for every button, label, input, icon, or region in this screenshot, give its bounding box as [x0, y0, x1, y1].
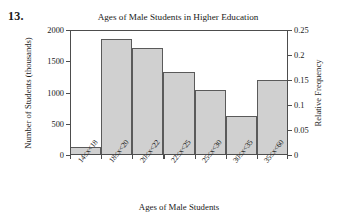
y-tick-right [288, 155, 292, 156]
axis-right-line [287, 30, 288, 155]
plot-area: 0500100015002000 00.050.10.150.20.25 [70, 30, 288, 155]
problem-number: 13. [8, 9, 24, 24]
y-axis-label-left: Number of Students (thousands) [22, 30, 34, 155]
bar-series [70, 30, 288, 155]
y-tick-label-right: 0.05 [294, 126, 309, 135]
axis-left-line [70, 30, 71, 155]
x-axis-tick-labels: 14≤x<1818≤x<2020≤x<2222≤x<2525≤x<3030≤x<… [70, 159, 288, 199]
y-tick-label-right: 0 [294, 151, 298, 160]
y-tick-right [288, 55, 292, 56]
y-axis-label-right-text: Relative Frequency [313, 59, 323, 126]
y-tick-label-right: 0.25 [294, 26, 309, 35]
bar [132, 48, 163, 155]
axis-top-line [70, 30, 288, 31]
y-tick-label-left: 1000 [47, 88, 64, 97]
y-tick-label-right: 0.2 [294, 51, 304, 60]
y-tick-label-left: 1500 [47, 57, 64, 66]
y-tick-left [66, 61, 70, 62]
y-tick-label-right: 0.1 [294, 101, 304, 110]
y-axis-label-right: Relative Frequency [312, 30, 324, 155]
y-tick-left [66, 93, 70, 94]
y-tick-left [66, 30, 70, 31]
y-tick-label-left: 2000 [47, 26, 64, 35]
y-axis-label-left-text: Number of Students (thousands) [23, 37, 33, 148]
bar [101, 39, 132, 155]
histogram-figure: 13. Ages of Male Students in Higher Educ… [0, 0, 338, 223]
x-axis-label: Ages of Male Students [70, 202, 288, 212]
y-tick-left [66, 124, 70, 125]
chart-title: Ages of Male Students in Higher Educatio… [62, 12, 294, 23]
y-tick-right [288, 105, 292, 106]
y-tick-label-left: 500 [51, 119, 64, 128]
y-tick-label-left: 0 [60, 151, 64, 160]
y-tick-label-right: 0.15 [294, 76, 309, 85]
y-tick-right [288, 80, 292, 81]
y-tick-right [288, 30, 292, 31]
y-tick-right [288, 130, 292, 131]
